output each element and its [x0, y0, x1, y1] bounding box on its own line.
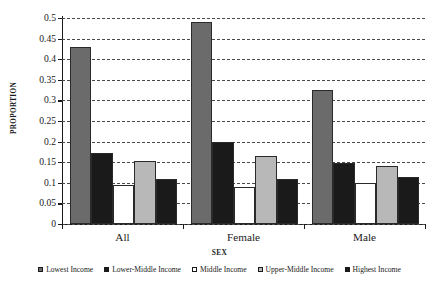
gridline [62, 224, 425, 225]
bar [355, 183, 376, 224]
gridline [62, 142, 425, 143]
chart-legend: Lowest IncomeLower-Middle IncomeMiddle I… [0, 266, 439, 274]
y-axis-tick-label: 0.25 [4, 116, 56, 126]
y-axis-tick-label: 0.05 [4, 199, 56, 209]
bar [234, 187, 255, 224]
plot-area [62, 18, 425, 224]
legend-swatch-icon [38, 267, 43, 272]
gridline [62, 59, 425, 60]
y-axis-tick-label: 0.2 [4, 137, 56, 147]
y-axis-tick-label: 0.4 [4, 54, 56, 64]
gridline [62, 121, 425, 122]
legend-label: Middle Income [200, 266, 247, 274]
y-axis-tick-label: 0.45 [4, 34, 56, 44]
legend-swatch-icon [104, 267, 109, 272]
x-axis-group-label: Male [353, 231, 376, 243]
bar [113, 185, 134, 224]
x-axis-tick-mark [183, 224, 184, 229]
bar-chart: PROPORTION 00.050.10.150.20.250.30.350.4… [0, 0, 439, 286]
bar [91, 153, 112, 224]
y-axis-tick-label: 0.35 [4, 75, 56, 85]
x-axis-group-label: Female [227, 231, 260, 243]
bar [277, 179, 298, 224]
legend-item: Lower-Middle Income [104, 266, 181, 274]
bar [212, 142, 233, 224]
bar [376, 166, 397, 224]
gridline [62, 18, 425, 19]
x-axis-tick-mark [62, 224, 63, 229]
y-axis-tick-label: 0.1 [4, 178, 56, 188]
legend-item: Middle Income [192, 266, 247, 274]
bar [191, 22, 212, 224]
legend-swatch-icon [345, 267, 350, 272]
y-axis-tick-label: 0 [4, 219, 56, 229]
legend-label: Lower-Middle Income [112, 266, 181, 274]
legend-label: Lowest Income [46, 266, 93, 274]
y-axis-tick-label: 0.15 [4, 157, 56, 167]
bar [312, 90, 333, 224]
y-axis-tick-label: 0.5 [4, 13, 56, 23]
x-axis-tick-mark [425, 224, 426, 229]
bar [70, 47, 91, 224]
x-axis-group-label: All [115, 231, 129, 243]
legend-label: Upper-Middle Income [266, 266, 334, 274]
bar [333, 163, 354, 224]
legend-swatch-icon [258, 267, 263, 272]
legend-item: Upper-Middle Income [258, 266, 334, 274]
gridline [62, 80, 425, 81]
legend-label: Highest Income [353, 266, 401, 274]
gridline [62, 162, 425, 163]
bar [134, 161, 155, 224]
x-axis-title: SEX [0, 248, 439, 257]
legend-swatch-icon [192, 267, 197, 272]
legend-item: Lowest Income [38, 266, 93, 274]
legend-item: Highest Income [345, 266, 401, 274]
bar [156, 179, 177, 224]
gridline [62, 100, 425, 101]
x-axis-tick-mark [304, 224, 305, 229]
y-axis-tick-label: 0.3 [4, 96, 56, 106]
bar [255, 156, 276, 224]
gridline [62, 39, 425, 40]
bar [398, 177, 419, 224]
